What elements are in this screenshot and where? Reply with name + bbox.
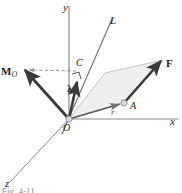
right-angle-mark (72, 72, 81, 79)
vector-label-F: F (166, 58, 173, 69)
vector-label-r: r (111, 108, 115, 117)
axis-label-x: x (170, 116, 175, 127)
line-label-L: L (110, 15, 116, 26)
vector-label-M-O: MO (1, 66, 17, 78)
axis-z-line (10, 119, 69, 182)
point-label-O: O (63, 123, 70, 133)
vector-MO-arrow (25, 70, 69, 119)
vector-diagram-figure: y x z L C O A r F MO λ Fig. 4-11 (0, 0, 182, 193)
point-label-A: A (130, 101, 136, 111)
vector-label-M-subscript: O (12, 70, 17, 79)
vector-label-lambda: λ (67, 83, 72, 94)
figure-caption: Fig. 4-11 (2, 186, 35, 193)
moment-parallelogram (69, 60, 163, 119)
vector-label-M: M (1, 65, 11, 77)
point-label-C: C (76, 58, 83, 68)
axis-label-y: y (63, 2, 68, 13)
diagram-canvas (0, 0, 182, 193)
point-A-marker (121, 100, 127, 106)
